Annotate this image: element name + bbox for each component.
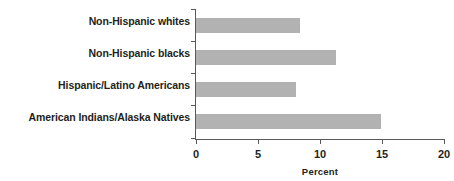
y-axis-tick — [191, 9, 196, 10]
bar-chart: Non-Hispanic whites Non-Hispanic blacks … — [0, 0, 454, 181]
x-axis-tick-label: 15 — [362, 148, 402, 160]
x-axis-tick — [196, 139, 197, 144]
x-axis-tick — [258, 139, 259, 144]
category-axis-labels: Non-Hispanic whites Non-Hispanic blacks … — [0, 0, 190, 140]
bar-american-indians-alaska-natives — [196, 114, 381, 129]
x-axis-title: Percent — [196, 166, 444, 177]
x-axis-tick — [382, 139, 383, 144]
bar-hispanic-latino-americans — [196, 82, 296, 97]
y-axis-tick — [191, 105, 196, 106]
category-label-non-hispanic-blacks: Non-Hispanic blacks — [0, 47, 190, 59]
x-axis-tick-label: 20 — [424, 148, 454, 160]
category-label-non-hispanic-whites: Non-Hispanic whites — [0, 15, 190, 27]
category-label-hispanic-latino-americans: Hispanic/Latino Americans — [0, 79, 190, 91]
x-axis-tick — [444, 139, 445, 144]
x-axis-tick-label: 5 — [238, 148, 278, 160]
y-axis-tick — [191, 73, 196, 74]
x-axis-tick — [320, 139, 321, 144]
bar-non-hispanic-whites — [196, 18, 300, 33]
plot-area: 0 5 10 15 20 Percent — [196, 9, 444, 139]
bar-non-hispanic-blacks — [196, 50, 336, 65]
y-axis-tick — [191, 41, 196, 42]
category-label-american-indians-alaska-natives: American Indians/Alaska Natives — [0, 111, 190, 123]
x-axis-tick-label: 10 — [300, 148, 340, 160]
x-axis-tick-label: 0 — [176, 148, 216, 160]
